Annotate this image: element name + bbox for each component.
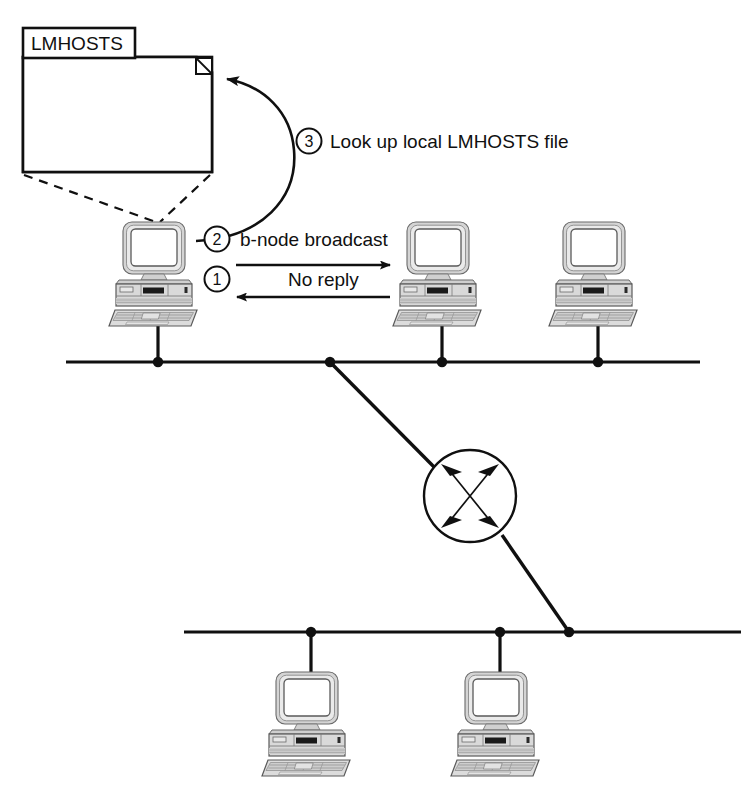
pc-top-middle[interactable] [393, 222, 481, 326]
junction-dot [437, 357, 447, 367]
file-lmhosts-label: LMHOSTS [31, 33, 123, 54]
junction-dot [593, 357, 603, 367]
step-2-number: 2 [213, 231, 222, 248]
step-3-text: Look up local LMHOSTS file [330, 131, 569, 152]
junction-dot [306, 627, 316, 637]
step-1-label-group: 1 No reply [205, 267, 391, 298]
step-3-number: 3 [305, 133, 314, 150]
folded-corner-icon [196, 58, 212, 74]
pc-top-right[interactable] [549, 222, 637, 326]
diagram-canvas: LMHOSTS 3 Look up local LMHOSTS file 2 b… [0, 0, 741, 809]
file-lmhosts: LMHOSTS [23, 28, 212, 172]
step-1-text: No reply [288, 269, 359, 290]
step-3-label-group: 3 Look up local LMHOSTS file [297, 129, 569, 154]
junction-dot [495, 627, 505, 637]
bottom-network-segment [184, 627, 741, 672]
router-uplink-line [330, 362, 440, 473]
router-switch [330, 362, 569, 632]
step-2-text: b-node broadcast [240, 229, 389, 250]
pc-bottom-left[interactable] [262, 672, 350, 776]
router-downlink-line [502, 535, 569, 632]
junction-dot [153, 357, 163, 367]
pc-source-top-left[interactable] [109, 222, 197, 326]
top-network-segment [66, 325, 700, 367]
step-1-number: 1 [213, 271, 222, 288]
step-2-label-group: 2 b-node broadcast [205, 227, 391, 266]
callout-dashed-lines [24, 175, 210, 222]
network-diagram: LMHOSTS 3 Look up local LMHOSTS file 2 b… [0, 0, 741, 809]
pc-bottom-right[interactable] [451, 672, 539, 776]
